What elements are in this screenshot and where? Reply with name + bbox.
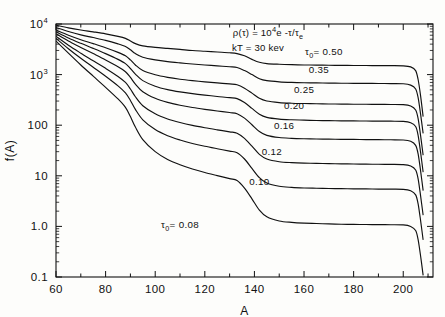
y-tick-label: 0.1 — [31, 271, 48, 283]
plot-frame — [56, 24, 433, 277]
y-tick-label: 103 — [30, 67, 48, 81]
equation-rho: ρ(τ) = 104e -τ/τe — [233, 25, 303, 41]
x-tick-label: 200 — [393, 283, 413, 295]
temperature-annotation: kT = 30 kev — [232, 42, 284, 53]
x-axis-title: A — [240, 304, 249, 317]
data-curve — [56, 25, 423, 116]
data-curve — [56, 34, 423, 190]
y-tick-label: 100 — [28, 119, 48, 131]
y-tick-label: 10 — [34, 170, 48, 182]
curve-label: 0.10 — [249, 176, 270, 187]
y-axis-title: f(A) — [3, 140, 17, 161]
figure-container: 6080100120140160180200104103100101.00.1 … — [0, 0, 445, 317]
scientific-plot: 6080100120140160180200104103100101.00.1 … — [0, 0, 445, 317]
x-tick-label: 140 — [244, 283, 264, 295]
x-tick-label: 100 — [145, 283, 165, 295]
x-tick-label: 60 — [49, 283, 63, 295]
curve-label: 0.25 — [294, 84, 315, 95]
data-curve — [56, 41, 423, 275]
x-tick-label: 180 — [343, 283, 363, 295]
x-tick-label: 80 — [99, 283, 113, 295]
curve-label: 0.20 — [284, 100, 305, 111]
x-tick-label: 120 — [195, 283, 215, 295]
curve-label: τ0= 0.50 — [305, 46, 343, 60]
curve-label: 0.35 — [309, 64, 330, 75]
x-tick-label: 160 — [294, 283, 314, 295]
annotations-group: ρ(τ) = 104e -τ/τekT = 30 kev — [232, 25, 303, 53]
y-tick-label: 1.0 — [31, 220, 48, 232]
curve-label: 0.16 — [274, 120, 295, 131]
y-tick-label: 104 — [30, 16, 48, 30]
curves-group — [56, 25, 423, 275]
curve-label: τ0= 0.08 — [161, 219, 199, 233]
curve-label: 0.12 — [262, 146, 282, 157]
